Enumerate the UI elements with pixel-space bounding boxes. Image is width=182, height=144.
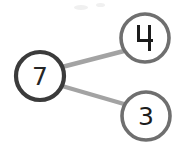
whole-value-7: 7 [16, 52, 64, 100]
digit-four-glyph [137, 25, 154, 51]
part-value-3: 3 [122, 92, 170, 140]
number-bond-diagram: 7 3 [0, 0, 182, 144]
part-value-4 [121, 14, 169, 62]
four-stem-stroke [148, 25, 151, 51]
connector-whole-to-part-4 [62, 51, 124, 67]
connector-whole-to-part-3 [62, 86, 124, 104]
